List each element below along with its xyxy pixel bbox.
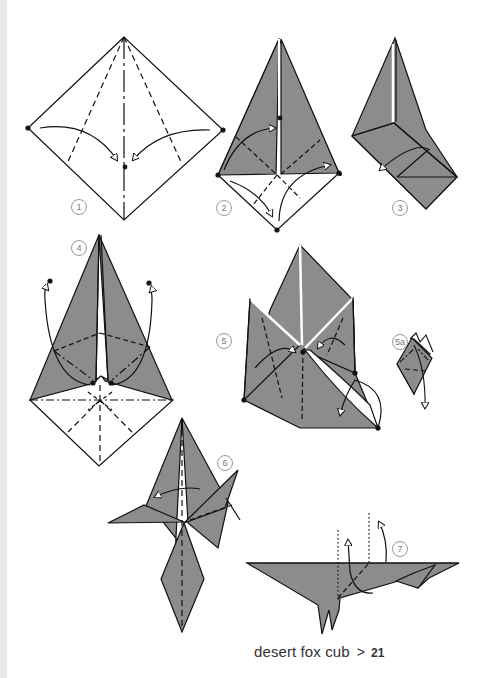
book-section-title: desert fox cub	[254, 643, 350, 660]
step-label-1: 1	[71, 199, 87, 215]
step-label-4: 4	[71, 240, 87, 256]
step-label-6: 6	[217, 455, 233, 471]
step-label-3: 3	[392, 200, 408, 216]
step-4-diagram	[30, 235, 173, 466]
footer-separator: >	[357, 644, 365, 660]
step-label-2: 2	[216, 200, 232, 216]
step-label-5: 5	[216, 333, 232, 349]
step-3-diagram	[339, 38, 458, 209]
page-number: 21	[371, 646, 385, 660]
step-2-diagram	[216, 39, 341, 232]
origami-diagrams	[0, 0, 488, 678]
step-7-diagram	[247, 513, 459, 634]
step-6-diagram	[108, 418, 240, 632]
step-label-7: 7	[392, 541, 408, 557]
step-1-diagram	[26, 37, 225, 220]
page-footer: desert fox cub>21	[254, 643, 384, 660]
step-label-5a: 5a	[392, 334, 408, 350]
step-5-diagram	[242, 245, 381, 430]
